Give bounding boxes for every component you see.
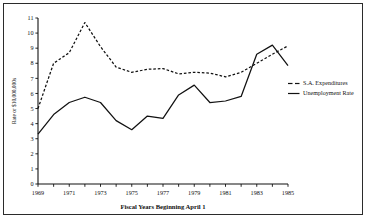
x-tick-label: 1969 — [32, 189, 44, 196]
y-tick-label: 4 — [30, 120, 33, 127]
legend-label-sa-expenditures: S.A. Expenditures — [303, 80, 348, 86]
x-axis-title: Fiscal Years Beginning April 1 — [120, 203, 205, 210]
x-tick-label: 1979 — [188, 189, 200, 196]
x-tick-label: 1981 — [219, 189, 231, 196]
series-line-sa-expenditures — [38, 23, 288, 109]
y-tick-label: 6 — [30, 90, 33, 97]
y-tick-label: 1 — [30, 165, 33, 172]
x-tick-label: 1975 — [126, 189, 138, 196]
line-chart: Rate or $10,000,000s 01234567891011 1969… — [0, 0, 368, 220]
chart-legend: S.A. Expenditures Unemployment Rate — [288, 80, 354, 96]
y-tick-label: 11 — [28, 14, 34, 21]
x-tick-label: 1977 — [157, 189, 169, 196]
y-tick-label: 5 — [30, 105, 33, 112]
series-line-unemployment-rate — [38, 45, 288, 134]
x-tick-label: 1985 — [282, 189, 294, 196]
x-tick-label: 1971 — [63, 189, 75, 196]
y-tick-label: 8 — [30, 59, 33, 66]
y-tick-label: 0 — [30, 180, 33, 187]
y-axis-tick-labels: 01234567891011 — [27, 14, 33, 187]
y-tick-label: 2 — [30, 150, 33, 157]
legend-label-unemployment-rate: Unemployment Rate — [303, 90, 354, 96]
x-axis-tick-labels: 196919711973197519771979198119831985 — [32, 189, 294, 196]
y-tick-label: 7 — [30, 75, 33, 82]
y-axis-title: Rate or $10,000,000s — [11, 78, 17, 124]
x-tick-label: 1973 — [94, 189, 106, 196]
y-tick-label: 3 — [30, 135, 33, 142]
y-tick-label: 9 — [30, 44, 33, 51]
y-tick-label: 10 — [27, 29, 33, 36]
x-tick-label: 1983 — [251, 189, 263, 196]
chart-figure: Rate or $10,000,000s 01234567891011 1969… — [0, 0, 368, 220]
